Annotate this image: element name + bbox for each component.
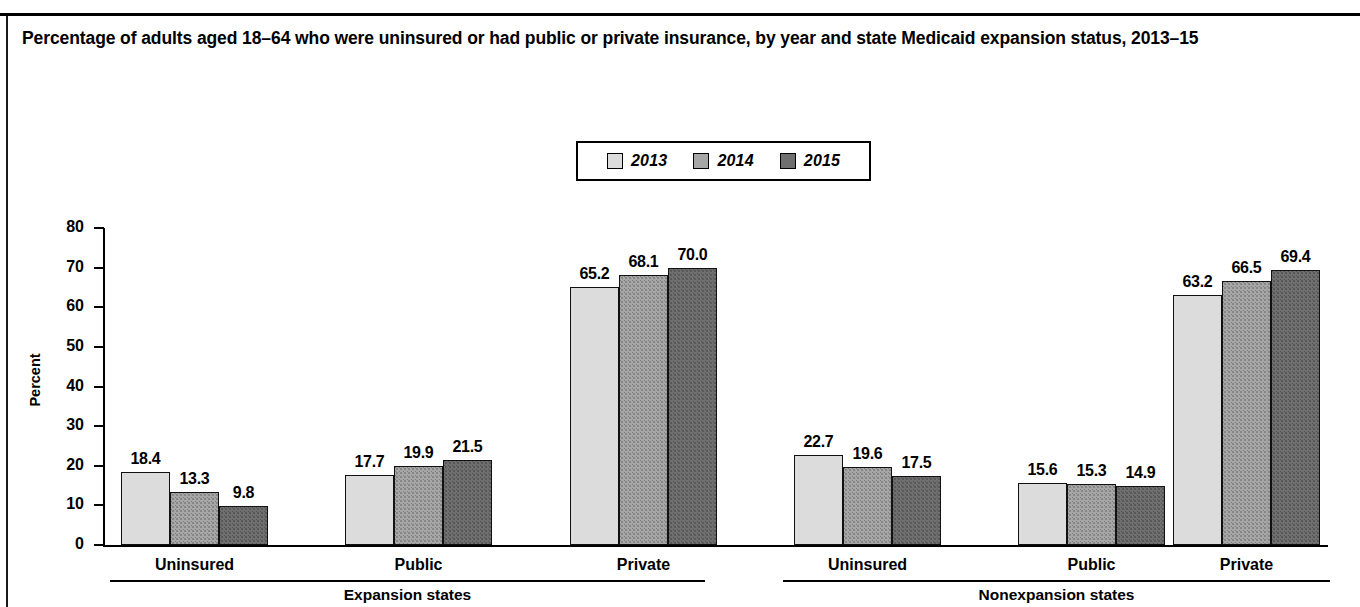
y-axis-tick-label: 60 — [38, 297, 84, 315]
chart-page: Percentage of adults aged 18–64 who were… — [0, 0, 1360, 607]
bar-value-label: 14.9 — [1108, 464, 1173, 482]
bar — [394, 466, 443, 545]
bar — [1116, 486, 1165, 545]
bar — [892, 476, 941, 545]
y-axis-tick — [94, 346, 104, 348]
bar — [1271, 270, 1320, 545]
bar — [1018, 483, 1067, 545]
bar-value-label: 21.5 — [435, 438, 500, 456]
bar — [570, 287, 619, 545]
bar-value-label: 17.5 — [884, 454, 949, 472]
y-axis-tick-label: 40 — [38, 377, 84, 395]
y-axis-tick — [94, 386, 104, 388]
bar — [443, 460, 492, 545]
bar — [843, 467, 892, 545]
bar — [1067, 484, 1116, 545]
y-axis-tick — [94, 425, 104, 427]
group-rule — [783, 580, 1330, 582]
plot-area: Percent 0102030405060708018.413.39.817.7… — [0, 0, 1360, 607]
y-axis-tick-label: 70 — [38, 258, 84, 276]
group-rule — [110, 580, 705, 582]
y-axis-tick-label: 30 — [38, 416, 84, 434]
category-label-public: Public — [329, 556, 509, 574]
y-axis-tick — [94, 504, 104, 506]
y-axis-tick-label: 10 — [38, 495, 84, 513]
y-axis-tick-label: 50 — [38, 337, 84, 355]
bar-value-label: 70.0 — [660, 246, 725, 264]
y-axis-line — [103, 228, 105, 547]
category-label-private: Private — [554, 556, 734, 574]
y-axis-tick-label: 20 — [38, 456, 84, 474]
bar-value-label: 9.8 — [211, 484, 276, 502]
y-axis-tick — [94, 544, 104, 546]
bar — [1222, 281, 1271, 545]
bar — [794, 455, 843, 545]
bar — [668, 268, 717, 545]
group-label: Nonexpansion states — [783, 586, 1330, 604]
bar-value-label: 69.4 — [1263, 248, 1328, 266]
y-axis-tick-label: 80 — [38, 218, 84, 236]
bar — [345, 475, 394, 545]
y-axis-tick — [94, 465, 104, 467]
category-label-uninsured: Uninsured — [778, 556, 958, 574]
bar — [1173, 295, 1222, 545]
category-label-private: Private — [1157, 556, 1337, 574]
y-axis-tick — [94, 267, 104, 269]
x-axis-baseline — [103, 545, 1328, 547]
bar-value-label: 18.4 — [113, 450, 178, 468]
bar — [619, 275, 668, 545]
group-label: Expansion states — [110, 586, 705, 604]
bar — [219, 506, 268, 545]
y-axis-tick-label: 0 — [38, 535, 84, 553]
category-label-public: Public — [1002, 556, 1182, 574]
y-axis-tick — [94, 306, 104, 308]
category-label-uninsured: Uninsured — [105, 556, 285, 574]
y-axis-tick — [94, 227, 104, 229]
